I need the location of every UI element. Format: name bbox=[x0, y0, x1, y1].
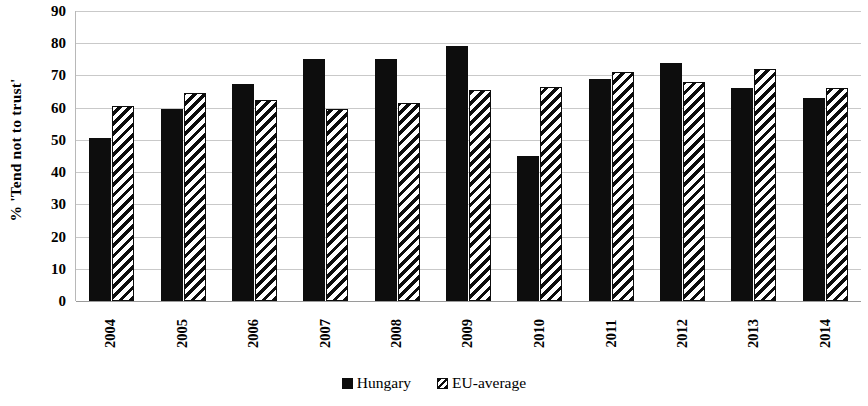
y-axis-tick-label: 20 bbox=[51, 229, 66, 244]
bar-eu-average-2005 bbox=[184, 93, 206, 301]
bar-hungary-2004 bbox=[89, 138, 111, 301]
x-axis-tick-label: 2006 bbox=[218, 303, 289, 365]
bar-eu-average-2009 bbox=[469, 90, 491, 301]
x-axis-tick-label-text: 2008 bbox=[388, 319, 405, 348]
bar-groups bbox=[76, 11, 861, 301]
x-axis-tick-label: 2005 bbox=[146, 303, 217, 365]
y-axis-tick-label: 0 bbox=[59, 294, 67, 309]
x-axis-tick-label-text: 2004 bbox=[102, 319, 119, 348]
x-axis-tick-label-text: 2014 bbox=[817, 319, 834, 348]
bar-hungary-2007 bbox=[303, 59, 325, 301]
y-axis-tick-label: 40 bbox=[51, 165, 66, 180]
hatched-square-icon bbox=[437, 378, 448, 389]
bar-group bbox=[361, 11, 432, 301]
bar-hungary-2006 bbox=[232, 84, 254, 302]
x-axis-tick-label-text: 2009 bbox=[459, 319, 476, 348]
bar-hungary-2011 bbox=[589, 79, 611, 301]
bar-hungary-2008 bbox=[375, 59, 397, 301]
bar-group bbox=[433, 11, 504, 301]
bar-eu-average-2004 bbox=[112, 106, 134, 301]
x-axis-tick-label-text: 2013 bbox=[745, 319, 762, 348]
bar-eu-average-2013 bbox=[754, 69, 776, 301]
bar-group bbox=[718, 11, 789, 301]
y-axis-title: % 'Tend not to trust' bbox=[2, 0, 30, 300]
x-axis-tick-label: 2004 bbox=[75, 303, 146, 365]
x-axis-tick-label-text: 2011 bbox=[602, 319, 619, 347]
bar-hungary-2009 bbox=[446, 46, 468, 301]
bar-eu-average-2007 bbox=[326, 109, 348, 301]
bar-eu-average-2008 bbox=[398, 103, 420, 301]
x-axis-tick-label-text: 2010 bbox=[531, 319, 548, 348]
bar-eu-average-2014 bbox=[826, 88, 848, 301]
x-axis-tick-label-text: 2006 bbox=[245, 319, 262, 348]
bar-group bbox=[790, 11, 861, 301]
x-axis-tick-label-text: 2012 bbox=[674, 319, 691, 348]
bar-group bbox=[290, 11, 361, 301]
solid-square-icon bbox=[342, 378, 353, 389]
bar-eu-average-2010 bbox=[540, 87, 562, 301]
bar-hungary-2005 bbox=[161, 109, 183, 301]
bar-eu-average-2012 bbox=[683, 82, 705, 301]
legend-item[interactable]: Hungary bbox=[342, 374, 411, 392]
legend-item-label: Hungary bbox=[357, 374, 411, 392]
bar-eu-average-2006 bbox=[255, 100, 277, 301]
y-axis-tick-label: 50 bbox=[51, 132, 66, 147]
bar-group bbox=[76, 11, 147, 301]
y-axis-tick-label: 10 bbox=[51, 261, 66, 276]
x-axis-tick-label: 2013 bbox=[718, 303, 789, 365]
bar-group bbox=[147, 11, 218, 301]
legend-item[interactable]: EU-average bbox=[437, 374, 526, 392]
bar-group bbox=[219, 11, 290, 301]
bar-eu-average-2011 bbox=[612, 72, 634, 301]
y-axis-tick-label: 80 bbox=[51, 36, 66, 51]
x-axis-tick-label: 2014 bbox=[790, 303, 861, 365]
x-axis-tick-label: 2012 bbox=[647, 303, 718, 365]
bar-group bbox=[647, 11, 718, 301]
bar-group bbox=[576, 11, 647, 301]
legend-item-label: EU-average bbox=[452, 374, 526, 392]
x-axis-tick-label-text: 2007 bbox=[317, 319, 334, 348]
x-axis-tick-label: 2008 bbox=[361, 303, 432, 365]
bar-group bbox=[504, 11, 575, 301]
bar-chart: % 'Tend not to trust' 908070605040302010… bbox=[0, 0, 868, 406]
y-axis-tick-label: 30 bbox=[51, 197, 66, 212]
bar-hungary-2013 bbox=[731, 88, 753, 301]
y-axis-tick-label: 60 bbox=[51, 100, 66, 115]
x-axis-tick-label: 2007 bbox=[289, 303, 360, 365]
y-axis-tick-label: 70 bbox=[51, 68, 66, 83]
x-axis-tick-label: 2009 bbox=[432, 303, 503, 365]
y-axis-tick-label: 90 bbox=[51, 4, 66, 19]
y-axis-tick-labels: 9080706050403020100 bbox=[30, 0, 70, 301]
plot-area bbox=[75, 11, 861, 301]
axis-baseline bbox=[76, 301, 861, 302]
x-axis-tick-label: 2011 bbox=[575, 303, 646, 365]
x-axis-tick-labels: 2004200520062007200820092010201120122013… bbox=[75, 303, 861, 365]
chart-legend: HungaryEU-average bbox=[0, 374, 868, 392]
bar-hungary-2014 bbox=[803, 98, 825, 301]
y-axis-title-text: % 'Tend not to trust' bbox=[7, 78, 25, 221]
bar-hungary-2012 bbox=[660, 63, 682, 301]
x-axis-tick-label: 2010 bbox=[504, 303, 575, 365]
x-axis-tick-label-text: 2005 bbox=[174, 319, 191, 348]
bar-hungary-2010 bbox=[517, 156, 539, 301]
